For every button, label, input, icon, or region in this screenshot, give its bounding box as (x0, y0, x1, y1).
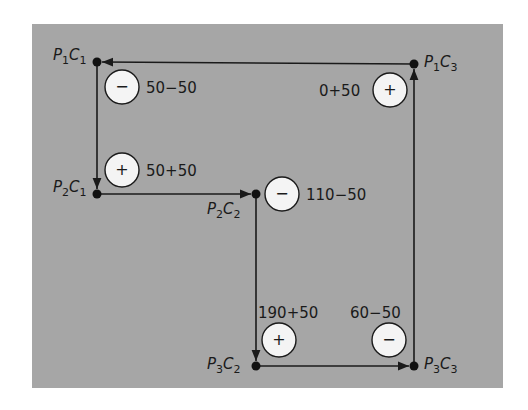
edge-p1c3-to-p1c1 (102, 62, 414, 64)
loop-graph: P1C1 P2C1 P2C2 P3C2 P3C3 P1C3 − 50−50 + … (0, 0, 528, 410)
node-label-p3c3: P3C3 (424, 355, 458, 376)
sign-minus: − (382, 330, 395, 349)
node-label-p1c3: P1C3 (424, 53, 458, 74)
node-dot-p2c1 (93, 190, 102, 199)
marker-p1c3: 0+50 + (319, 73, 407, 107)
sign-plus: + (383, 80, 396, 99)
marker-p2c1: + 50+50 (105, 153, 197, 187)
node-dot-p3c3 (410, 362, 419, 371)
stepping-stone-diagram: P1C1 P2C1 P2C2 P3C2 P3C3 P1C3 − 50−50 + … (0, 0, 528, 410)
marker-p3c2: 190+50 + (258, 304, 318, 357)
marker-value: 60−50 (350, 304, 401, 322)
node-label-p1c1: P1C1 (53, 46, 87, 67)
node-dot-p1c3 (410, 60, 419, 69)
node-label-p2c2: P2C2 (207, 200, 241, 221)
marker-p3c3: 60−50 − (350, 304, 406, 357)
node-dot-p1c1 (93, 58, 102, 67)
marker-p1c1: − 50−50 (105, 70, 197, 104)
marker-value: 0+50 (319, 82, 360, 100)
marker-value: 50−50 (146, 79, 197, 97)
node-dot-p2c2 (252, 190, 261, 199)
sign-minus: − (115, 77, 128, 96)
node-label-p3c2: P3C2 (207, 355, 241, 376)
sign-plus: + (115, 160, 128, 179)
node-label-p2c1: P2C1 (53, 178, 87, 199)
marker-value: 110−50 (306, 186, 366, 204)
marker-p2c2: − 110−50 (265, 177, 366, 211)
marker-value: 190+50 (258, 304, 318, 322)
sign-minus: − (275, 184, 288, 203)
marker-value: 50+50 (146, 162, 197, 180)
node-dot-p3c2 (252, 362, 261, 371)
sign-plus: + (272, 330, 285, 349)
